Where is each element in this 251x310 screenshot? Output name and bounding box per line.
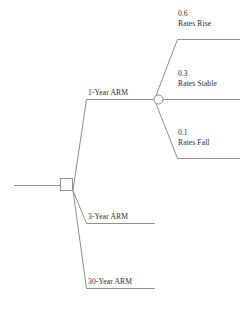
probability-rates-fall: 0.1: [178, 128, 188, 137]
edge-rates-fall: [156, 104, 240, 159]
branch-label-30-year-arm: 30-Year ARM: [88, 277, 132, 286]
branch-label-1-year-arm: 1-Year ARM: [88, 88, 128, 97]
outcome-label-rates-rise: Rates Rise: [178, 19, 211, 28]
outcome-label-rates-stable: Rates Stable: [178, 79, 217, 88]
branch-label-3-year-arm: 3-Year ARM: [88, 212, 128, 221]
edge-1-year-arm: [73, 100, 154, 191]
tree-edges-layer: [0, 0, 251, 310]
edge-30-year-arm: [73, 191, 155, 289]
outcome-label-rates-fall: Rates Fall: [178, 138, 210, 147]
chance-node-circle[interactable]: [154, 95, 163, 104]
probability-rates-rise: 0.6: [178, 9, 188, 18]
decision-node-square[interactable]: [61, 179, 73, 191]
probability-rates-stable: 0.3: [178, 69, 188, 78]
decision-tree-diagram: 1-Year ARM 3-Year ARM 30-Year ARM 0.6 Ra…: [0, 0, 251, 310]
